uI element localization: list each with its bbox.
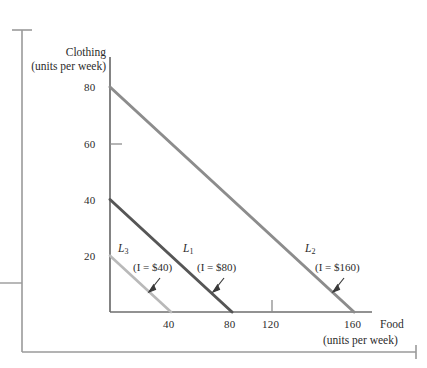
series-label-L1-subscript: 1 xyxy=(189,247,193,256)
x-tick-label-40: 40 xyxy=(163,318,174,331)
arrow-L3 xyxy=(149,278,160,292)
x-tick-label-160: 160 xyxy=(344,318,361,331)
x-axis-label: Food xyxy=(380,318,404,332)
series-label-L1: L1 xyxy=(183,242,193,256)
y-tick-label-80: 80 xyxy=(84,81,95,94)
arrow-L2 xyxy=(333,278,344,292)
series-label-L2: L2 xyxy=(305,242,315,256)
budget-line-L1 xyxy=(110,200,232,313)
series-annotation-L3: (I = $40) xyxy=(133,261,172,274)
arrow-L1 xyxy=(213,278,224,292)
x-axis-units: (units per week) xyxy=(323,334,398,348)
series-label-L2-subscript: 2 xyxy=(311,247,315,256)
x-tick-label-120: 120 xyxy=(262,318,279,331)
annotation-arrows xyxy=(149,278,344,292)
series-annotation-L2: (I = $160) xyxy=(315,261,360,274)
y-tick-label-40: 40 xyxy=(84,194,95,207)
x-tick-label-80: 80 xyxy=(224,318,235,331)
y-tick-label-20: 20 xyxy=(84,250,95,263)
series-label-L3-subscript: 3 xyxy=(124,247,128,256)
y-axis-units: (units per week) xyxy=(18,60,106,74)
budget-line-L2 xyxy=(110,87,354,312)
budget-line-figure: Clothing (units per week) 80 60 40 20 40… xyxy=(0,0,427,368)
series-annotation-L1: (I = $80) xyxy=(197,261,236,274)
y-tick-label-60: 60 xyxy=(84,138,95,151)
y-axis-label: Clothing xyxy=(40,46,106,60)
series-label-L3: L3 xyxy=(118,242,128,256)
